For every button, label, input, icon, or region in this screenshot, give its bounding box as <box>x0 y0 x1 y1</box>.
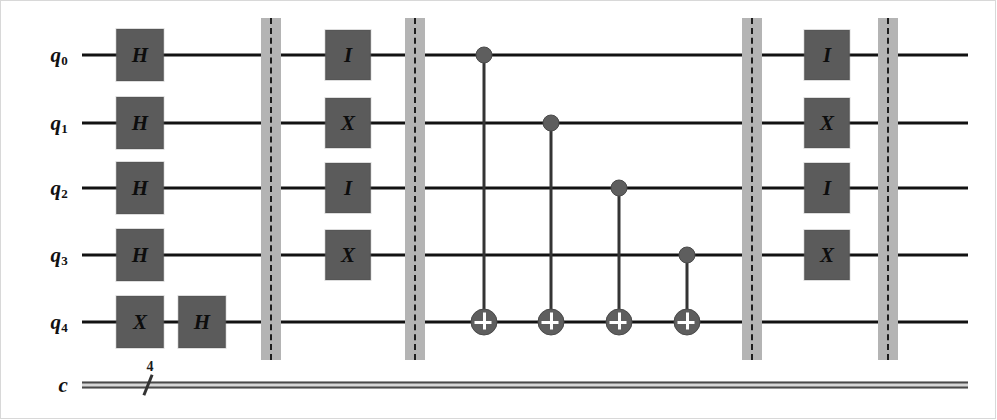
h-gate-q1-col0: H <box>117 97 164 149</box>
h-gate-q3-col0-label: H <box>132 245 148 266</box>
h-gate-q2-col0: H <box>117 162 164 214</box>
register-label-index: 3 <box>61 253 68 268</box>
register-label-text: q <box>51 176 62 200</box>
barrier-3 <box>742 18 762 360</box>
cnot-q2-q4-control-dot <box>611 180 628 197</box>
i-gate-q0-col4-label: I <box>823 45 831 66</box>
i-gate-q0-col4: I <box>805 30 850 80</box>
x-gate-q3-col2-label: X <box>341 245 355 266</box>
i-gate-q2-col2: I <box>326 163 371 213</box>
register-label-q2: q2 <box>51 176 68 201</box>
register-label-q1: q1 <box>51 111 68 136</box>
i-gate-q2-col4: I <box>805 163 850 213</box>
x-gate-q1-col2-label: X <box>341 113 355 134</box>
barrier-1 <box>261 18 281 360</box>
x-gate-q4-col0-label: X <box>133 312 147 333</box>
h-gate-q0-col0: H <box>117 29 164 81</box>
register-label-classical: c <box>58 373 68 398</box>
barrier-1-dashed-line <box>270 18 272 360</box>
cnot-q0-q4-target-icon <box>471 309 498 336</box>
barrier-4 <box>878 18 898 360</box>
i-gate-q2-col2-label: I <box>344 178 352 199</box>
x-gate-q3-col4: X <box>805 230 850 280</box>
h-gate-q4-col1-label: H <box>194 312 210 333</box>
x-gate-q3-col4-label: X <box>820 245 834 266</box>
register-label-q4: q4 <box>51 310 68 335</box>
barrier-4-dashed-line <box>887 18 889 360</box>
barrier-2 <box>405 18 425 360</box>
register-label-text: q <box>51 111 62 135</box>
cnot-q2-q4-target-icon <box>606 309 633 336</box>
h-gate-q4-col1: H <box>179 296 226 348</box>
register-label-q3: q3 <box>51 243 68 268</box>
h-gate-q2-col0-label: H <box>132 178 148 199</box>
cnot-q1-q4-control-dot <box>543 115 560 132</box>
register-label-text: c <box>58 373 68 397</box>
classical-register-wire <box>82 382 968 389</box>
x-gate-q1-col2: X <box>326 98 371 148</box>
x-gate-q1-col4: X <box>805 98 850 148</box>
i-gate-q0-col2-label: I <box>344 45 352 66</box>
register-label-q0: q0 <box>51 43 68 68</box>
x-gate-q4-col0: X <box>117 296 164 348</box>
x-gate-q3-col2: X <box>326 230 371 280</box>
barrier-3-dashed-line <box>751 18 753 360</box>
register-label-index: 0 <box>61 53 68 68</box>
register-label-text: q <box>51 310 62 334</box>
i-gate-q2-col4-label: I <box>823 178 831 199</box>
cnot-q0-q4-connector <box>483 55 486 322</box>
cnot-q1-q4-connector <box>550 123 553 322</box>
cnot-q3-q4-control-dot <box>679 247 696 264</box>
h-gate-q1-col0-label: H <box>132 113 148 134</box>
register-label-text: q <box>51 243 62 267</box>
register-label-index: 1 <box>61 121 68 136</box>
cnot-q2-q4-connector <box>618 188 621 322</box>
register-label-text: q <box>51 43 62 67</box>
register-label-index: 4 <box>61 320 68 335</box>
register-label-index: 2 <box>61 186 68 201</box>
i-gate-q0-col2: I <box>326 30 371 80</box>
barrier-2-dashed-line <box>414 18 416 360</box>
h-gate-q3-col0: H <box>117 229 164 281</box>
cnot-q0-q4-control-dot <box>476 47 493 64</box>
x-gate-q1-col4-label: X <box>820 113 834 134</box>
classical-bit-count: 4 <box>147 359 154 375</box>
cnot-q3-q4-target-icon <box>674 309 701 336</box>
cnot-q1-q4-target-icon <box>538 309 565 336</box>
h-gate-q0-col0-label: H <box>132 45 148 66</box>
quantum-circuit-diagram: 4 q0q1q2q3q4c HHHHXHIXIXIXIX <box>0 0 997 420</box>
